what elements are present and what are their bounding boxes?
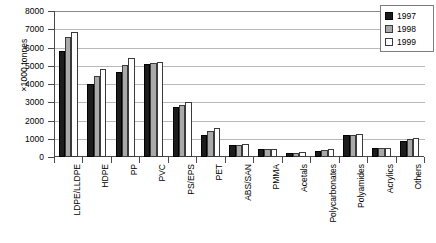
bar-set: [343, 11, 362, 157]
legend: 1997 1998 1999: [380, 5, 434, 52]
x-axis-tick-label: Polyamides: [356, 164, 366, 208]
x-axis-tick-mark: [253, 157, 254, 163]
x-axis-labels: LDPE/LLDPEHDPEPPPVCPS/EPSPETABS/SANPMMAA…: [54, 164, 424, 242]
bar-set: [201, 11, 220, 157]
legend-label-1999: 1999: [397, 37, 416, 47]
bar-chart: ×1000 tonnes 010002000300040005000600070…: [0, 0, 436, 243]
bar-group: [282, 11, 310, 157]
x-axis-tick-label: Acetals: [299, 164, 309, 192]
x-axis-tick-label: HDPE: [100, 164, 110, 188]
legend-item-1999: 1999: [385, 35, 430, 48]
bar-groups: [54, 11, 424, 157]
bar-1999: [385, 148, 391, 157]
bar-1999: [242, 144, 248, 157]
bar-set: [315, 11, 334, 157]
bar-group: [225, 11, 253, 157]
bar-1999: [157, 62, 163, 157]
bar-group: [139, 11, 167, 157]
legend-label-1997: 1997: [397, 11, 416, 21]
bar-1999: [185, 102, 191, 157]
bar-1999: [328, 149, 334, 157]
x-axis-tick-mark: [396, 157, 397, 163]
bar-set: [87, 11, 106, 157]
legend-swatch-1998: [385, 25, 393, 33]
bar-group: [196, 11, 224, 157]
bar-set: [144, 11, 163, 157]
y-axis-tick-label: 0: [0, 152, 44, 162]
bar-set: [173, 11, 192, 157]
legend-item-1997: 1997: [385, 9, 430, 22]
x-axis-tick-label: Polycarbonates: [328, 164, 338, 223]
x-axis-tick-label: PS/EPS: [186, 164, 196, 195]
y-axis-tick-label: 6000: [0, 43, 44, 53]
x-axis-tick-mark: [111, 157, 112, 163]
bar-group: [253, 11, 281, 157]
y-axis-tick-label: 1000: [0, 134, 44, 144]
bar-group: [54, 11, 82, 157]
bar-1999: [356, 134, 362, 157]
x-axis-tick-label: PP: [129, 164, 139, 175]
bar-group: [82, 11, 110, 157]
bar-group: [339, 11, 367, 157]
x-axis-tick-mark: [424, 157, 425, 163]
x-axis-tick-label: Others: [413, 164, 423, 190]
x-axis-tick-mark: [339, 157, 340, 163]
bar-set: [286, 11, 305, 157]
x-axis-tick-label: PET: [214, 164, 224, 181]
x-axis-tick-mark: [82, 157, 83, 163]
bar-1999: [214, 128, 220, 157]
x-axis-tick-mark: [139, 157, 140, 163]
bar-set: [258, 11, 277, 157]
bar-set: [59, 11, 78, 157]
bar-1999: [128, 58, 134, 157]
y-axis-tick-label: 8000: [0, 6, 44, 16]
legend-label-1998: 1998: [397, 24, 416, 34]
bar-group: [310, 11, 338, 157]
bar-1999: [71, 32, 77, 157]
bar-set: [229, 11, 248, 157]
bar-group: [111, 11, 139, 157]
y-axis-tick-label: 2000: [0, 116, 44, 126]
bar-1999: [413, 138, 419, 157]
x-axis-tick-label: PVC: [157, 164, 167, 181]
y-axis-tick-label: 4000: [0, 79, 44, 89]
bar-1999: [271, 149, 277, 157]
x-axis-tick-mark: [196, 157, 197, 163]
bar-1999: [100, 69, 106, 157]
x-axis-tick-mark: [310, 157, 311, 163]
x-axis-tick-label: Acrylics: [385, 164, 395, 193]
x-axis-tick-mark: [367, 157, 368, 163]
x-axis-tick-label: PMMA: [271, 164, 281, 190]
x-axis-tick-mark: [282, 157, 283, 163]
y-axis-tick-label: 3000: [0, 97, 44, 107]
legend-swatch-1999: [385, 38, 393, 46]
y-axis-tick-label: 5000: [0, 61, 44, 71]
x-axis-tick-label: ABS/SAN: [243, 164, 253, 201]
bar-group: [168, 11, 196, 157]
y-axis-tick-label: 7000: [0, 24, 44, 34]
x-axis-tick-mark: [54, 157, 55, 163]
x-axis-tick-label: LDPE/LLDPE: [72, 164, 82, 216]
legend-item-1998: 1998: [385, 22, 430, 35]
legend-swatch-1997: [385, 12, 393, 20]
x-axis-tick-mark: [225, 157, 226, 163]
x-axis-tick-mark: [168, 157, 169, 163]
bar-set: [116, 11, 135, 157]
